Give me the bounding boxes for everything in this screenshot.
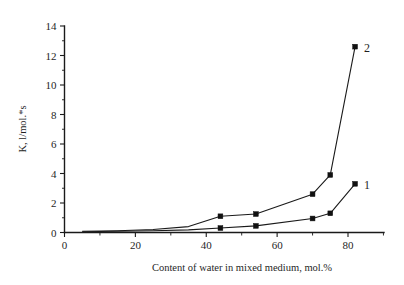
x-axis-tick-labels: 020406080 bbox=[62, 239, 354, 251]
data-point-marker bbox=[253, 212, 258, 217]
y-axis-title: K, l/mol.*s bbox=[17, 106, 28, 153]
data-series-group bbox=[82, 47, 355, 232]
x-tick-label: 0 bbox=[62, 239, 68, 251]
series-line-2 bbox=[82, 47, 355, 232]
x-tick-label: 80 bbox=[343, 239, 355, 251]
y-tick-label: 0 bbox=[51, 227, 57, 239]
y-tick-label: 10 bbox=[46, 79, 58, 91]
x-tick-label: 20 bbox=[130, 239, 142, 251]
data-point-marker bbox=[310, 216, 315, 221]
line-chart: 02468101214 020406080 12 Content of wate… bbox=[0, 0, 404, 285]
y-tick-label: 14 bbox=[46, 20, 58, 32]
data-point-marker bbox=[253, 223, 258, 228]
data-point-marker bbox=[218, 214, 223, 219]
data-point-marker bbox=[310, 192, 315, 197]
data-point-marker bbox=[353, 181, 358, 186]
x-axis-title: Content of water in mixed medium, mol.% bbox=[152, 262, 332, 273]
y-tick-label: 12 bbox=[46, 50, 57, 62]
chart-figure: 02468101214 020406080 12 Content of wate… bbox=[0, 0, 404, 285]
y-axis-tick-labels: 02468101214 bbox=[46, 20, 58, 239]
y-tick-label: 4 bbox=[51, 168, 57, 180]
y-tick-label: 6 bbox=[51, 138, 57, 150]
x-tick-label: 60 bbox=[272, 239, 284, 251]
data-point-marker bbox=[328, 211, 333, 216]
series-label-2: 2 bbox=[364, 41, 370, 55]
series-label-1: 1 bbox=[364, 178, 370, 192]
series-end-labels: 12 bbox=[364, 41, 370, 192]
x-tick-label: 40 bbox=[201, 239, 213, 251]
data-point-marker bbox=[218, 226, 223, 231]
y-tick-label: 2 bbox=[51, 197, 57, 209]
data-point-marker bbox=[328, 173, 333, 178]
data-point-marker bbox=[353, 44, 358, 49]
y-tick-label: 8 bbox=[51, 109, 57, 121]
series-line-1 bbox=[82, 184, 355, 232]
